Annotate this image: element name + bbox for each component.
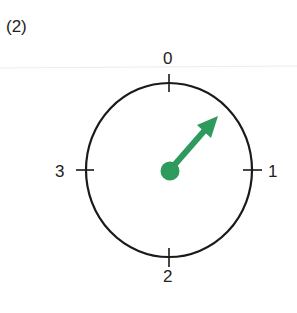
- dial-diagram: [0, 0, 297, 313]
- faint-scan-line: [0, 66, 297, 68]
- pointer-arrow-icon: [161, 116, 219, 181]
- pivot-dot: [161, 162, 180, 181]
